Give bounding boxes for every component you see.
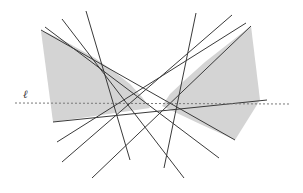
arrangement-diagram [0,0,303,193]
right-shaded-region [162,26,260,140]
line-ell-label: ℓ [23,88,28,101]
